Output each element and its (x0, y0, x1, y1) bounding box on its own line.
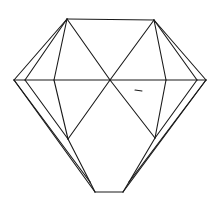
gem-drawing (0, 0, 218, 207)
gem-outline-icon (0, 0, 218, 207)
